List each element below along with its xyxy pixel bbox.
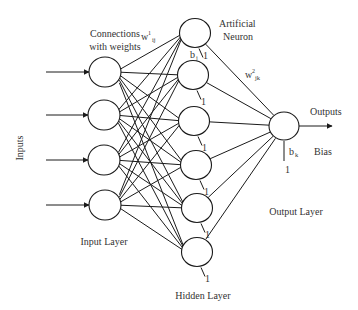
hidden-bias-subscript: j xyxy=(195,54,198,61)
hidden-neuron-4 xyxy=(181,151,212,180)
output-neuron xyxy=(269,112,299,140)
hidden-bias-one-3: 1 xyxy=(202,142,207,153)
edge-hidden4-output xyxy=(210,132,270,159)
output-bias-label: b k xyxy=(289,146,299,158)
input-neuron-4 xyxy=(89,190,121,220)
connections-label-line2: with weights xyxy=(89,41,140,52)
output-bias-one: 1 xyxy=(285,164,290,175)
edge-hidden3-output xyxy=(209,122,269,125)
neural-network-diagram: Inputs Connections with weights w 1 ij A… xyxy=(0,0,358,310)
input-neuron-2 xyxy=(88,100,120,130)
hidden-bias-one-6: 1 xyxy=(205,273,210,284)
hidden-neuron-1 xyxy=(180,19,211,48)
weight1-superscript: 1 xyxy=(148,30,151,36)
hidden-bias-one-2: 1 xyxy=(201,96,206,107)
hidden-neuron-2 xyxy=(178,61,209,90)
edge-hidden2-output xyxy=(207,83,271,119)
outputs-label: Outputs xyxy=(310,106,342,117)
hidden-bias-one-5: 1 xyxy=(205,229,210,240)
connections-label-line1: Connections xyxy=(90,28,140,39)
hidden-bias-base: b xyxy=(190,49,195,60)
output-bias-subscript: k xyxy=(295,151,299,158)
edge-input1-hidden4 xyxy=(119,78,182,162)
weight2-label: w 2 jk xyxy=(245,68,261,81)
edge-hidden6-output xyxy=(206,138,276,239)
hidden-layer-label: Hidden Layer xyxy=(175,290,231,301)
artificial-neuron-label-line1: Artificial xyxy=(219,18,256,29)
weight2-subscript: jk xyxy=(254,74,261,81)
hidden-bias-one-1: 1 xyxy=(203,50,208,61)
inputs-label: Inputs xyxy=(14,135,25,160)
bias-one-labels: 1111111 xyxy=(201,50,290,284)
edge-input4-hidden1 xyxy=(119,40,181,195)
hidden-neuron-5 xyxy=(182,194,213,223)
hidden-bias-label: b j xyxy=(190,49,198,61)
hidden-bias-one-4: 1 xyxy=(204,186,209,197)
output-layer-label: Output Layer xyxy=(269,206,323,217)
weight1-subscript: ij xyxy=(152,36,156,43)
input-neuron-1 xyxy=(89,57,121,87)
output-bias-base: b xyxy=(289,146,294,157)
input-neuron-3 xyxy=(88,145,120,175)
edge-input2-hidden2 xyxy=(118,77,179,113)
edge-hidden1-output xyxy=(206,44,274,115)
bias-label: Bias xyxy=(314,146,332,157)
hidden-neuron-3 xyxy=(179,107,210,136)
weight1-label: w 1 ij xyxy=(141,30,156,43)
artificial-neuron-label-line2: Neuron xyxy=(223,31,253,42)
input-layer-label: Input Layer xyxy=(81,236,129,247)
hidden-neuron-6 xyxy=(182,238,213,267)
